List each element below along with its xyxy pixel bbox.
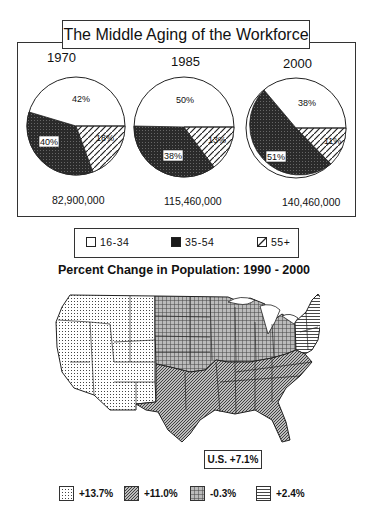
dark-swatch-icon [171,237,181,247]
pie-year-2000: 2000 [283,56,312,71]
legend-label: +13.7% [79,488,113,499]
pie-label-1970-55plus: 18% [96,133,114,143]
pie-total-2000: 140,460,000 [282,196,340,208]
map-legend-midwest: -0.3% [190,486,236,501]
legend-label: 16-34 [100,236,129,248]
region-west [56,295,156,410]
pie-label-2000-35-54: 51% [267,152,285,162]
pie-label-2000-55plus: 11% [324,136,341,146]
map-legend-northeast: +2.4% [256,486,305,501]
legend-label: 55+ [271,236,290,248]
legend-item-55plus: 55+ [257,236,290,248]
dots-pattern-icon [59,486,74,501]
legend-label: -0.3% [210,488,236,499]
white-swatch-icon [86,237,96,247]
grid-pattern-icon [190,486,205,501]
pie-total-1970: 82,900,000 [52,194,105,206]
chart-title: The Middle Aging of the Workforce [62,20,310,49]
pie-total-1985: 115,460,000 [164,195,222,207]
map-legend-west: +13.7% [59,486,113,501]
legend-label: +2.4% [276,488,305,499]
map-legend-south: +11.0% [124,486,178,501]
us-population-map [50,292,320,452]
legend-item-16-34: 16-34 [86,236,129,248]
pie-year-1985: 1985 [171,54,200,69]
hatch-swatch-icon [257,237,267,247]
pie-year-1970: 1970 [47,50,76,65]
pie-chart-1970: 42% 40% 18% [25,75,127,177]
legend-label: 35-54 [185,236,214,248]
legend-item-35-54: 35-54 [171,236,214,248]
us-total-badge: U.S. +7.1% [204,450,262,469]
pie-label-1985-35-54: 38% [164,151,182,161]
pie-label-1970-35-54: 40% [40,137,58,147]
pie-chart-2000: 38% 51% 11% [244,76,348,180]
horizontal-pattern-icon [256,486,271,501]
legend-label: +11.0% [144,488,178,499]
map-title: Percent Change in Population: 1990 - 200… [0,263,368,277]
pie-label-1970-16-34: 42% [72,94,90,104]
pie-label-1985-55plus: 13% [208,135,226,145]
pie-chart-1985: 50% 38% 13% [132,75,236,179]
age-group-legend: 16-34 35-54 55+ [74,228,299,258]
pie-label-2000-16-34: 38% [298,98,316,108]
pie-label-1985-16-34: 50% [176,95,194,105]
diagonal-pattern-icon [124,486,139,501]
